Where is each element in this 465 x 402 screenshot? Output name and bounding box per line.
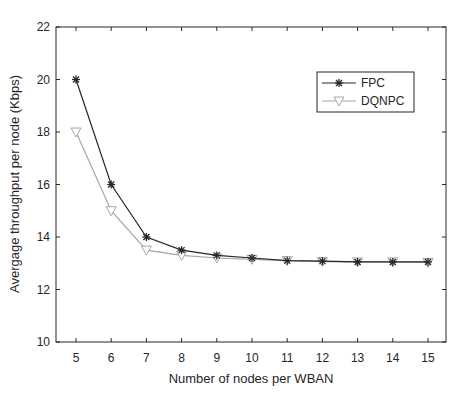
x-tick-label: 8: [178, 351, 185, 365]
x-tick-label: 6: [108, 351, 115, 365]
x-axis-label: Number of nodes per WBAN: [169, 371, 334, 386]
y-tick-label: 20: [37, 73, 51, 87]
y-tick-label: 18: [37, 125, 51, 139]
legend-label: DQNPC: [361, 94, 405, 108]
y-tick-label: 22: [37, 20, 51, 34]
y-tick-label: 10: [37, 335, 51, 349]
x-tick-label: 12: [316, 351, 330, 365]
legend: FPCDQNPC: [317, 72, 414, 112]
x-tick-label: 5: [73, 351, 80, 365]
y-axis-label: Avergage throughput per node (Kbps): [7, 75, 22, 293]
x-tick-label: 13: [351, 351, 365, 365]
y-tick-label: 16: [37, 178, 51, 192]
legend-label: FPC: [361, 76, 385, 90]
x-tick-label: 10: [245, 351, 259, 365]
x-tick-label: 9: [213, 351, 220, 365]
x-tick-label: 14: [386, 351, 400, 365]
y-tick-label: 14: [37, 230, 51, 244]
x-tick-label: 11: [281, 351, 294, 365]
x-tick-label: 15: [421, 351, 435, 365]
line-chart: 5678910111213141510121416182022 Number o…: [0, 0, 465, 402]
x-tick-label: 7: [143, 351, 150, 365]
y-tick-label: 12: [37, 283, 51, 297]
